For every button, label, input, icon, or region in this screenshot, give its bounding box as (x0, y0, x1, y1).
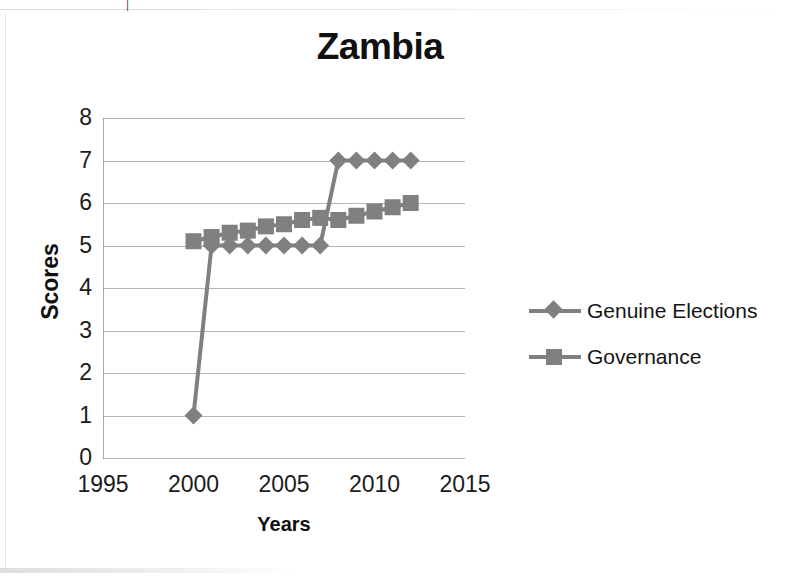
data-point-diamond (311, 237, 329, 255)
x-axis-tick-label: 2005 (239, 470, 329, 498)
data-point-square (367, 204, 383, 220)
plot-area (103, 118, 465, 458)
x-axis-tick-label: 2015 (420, 470, 510, 498)
y-axis-tick-label: 6 (52, 191, 92, 214)
data-point-diamond (329, 152, 347, 170)
series-genuine-elections (185, 152, 420, 425)
data-point-square (312, 210, 328, 226)
data-point-square (186, 233, 202, 249)
data-point-square (276, 216, 292, 232)
data-point-square (403, 195, 419, 211)
y-axis-tick-label: 2 (52, 361, 92, 384)
legend-entry-governance[interactable]: Governance (529, 334, 791, 380)
y-axis-tick-label: 7 (52, 149, 92, 172)
y-axis-tick-label: 0 (52, 446, 92, 469)
data-point-square (294, 212, 310, 228)
data-point-square (348, 208, 364, 224)
x-axis-tick-label: 1995 (58, 470, 148, 498)
data-point-diamond (185, 407, 203, 425)
y-axis-tick-label: 8 (52, 106, 92, 129)
chart-title: Zambia (0, 26, 760, 68)
legend-label: Genuine Elections (587, 300, 757, 322)
data-point-square (385, 199, 401, 215)
square-marker-icon (529, 348, 581, 366)
legend-entry-genuine-elections[interactable]: Genuine Elections (529, 288, 791, 334)
y-axis-tick-labels: 012345678 (46, 118, 92, 459)
data-point-square (204, 229, 220, 245)
legend-label: Governance (587, 346, 701, 368)
data-point-square (240, 223, 256, 239)
diamond-marker-icon (529, 302, 581, 320)
y-axis-tick-label: 4 (52, 276, 92, 299)
y-axis-tick-label: 5 (52, 234, 92, 257)
data-point-diamond (366, 152, 384, 170)
data-point-diamond (239, 237, 257, 255)
y-axis-tick-label: 1 (52, 404, 92, 427)
data-point-diamond (257, 237, 275, 255)
data-point-diamond (347, 152, 365, 170)
data-point-diamond (384, 152, 402, 170)
data-point-square (330, 212, 346, 228)
chart-legend: Genuine Elections Governance (529, 288, 791, 380)
series-layer (103, 118, 465, 458)
x-axis-tick-label: 2010 (330, 470, 420, 498)
data-point-square (258, 218, 274, 234)
data-point-diamond (275, 237, 293, 255)
chart-figure: Zambia Scores 012345678 1995200020052010… (0, 0, 798, 579)
x-axis-tick-label: 2000 (149, 470, 239, 498)
gridline (103, 458, 465, 459)
data-point-diamond (402, 152, 420, 170)
data-point-diamond (293, 237, 311, 255)
x-axis-tick-labels: 19952000200520102015 (0, 470, 560, 504)
series-line (194, 161, 411, 416)
x-axis-title: Years (103, 513, 465, 536)
data-point-square (222, 225, 238, 241)
y-axis-tick-label: 3 (52, 319, 92, 342)
